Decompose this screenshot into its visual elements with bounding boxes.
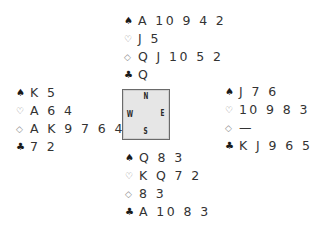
west-clubs-row: ♣ 7 2 [16, 138, 125, 156]
east-hearts-row: ♡ 10 9 8 3 [225, 101, 315, 119]
spade-icon: ♠ [125, 149, 139, 167]
north-hand: ♠ A 10 9 4 2 ♡ J 5 ◇ Q J 10 5 2 ♣ Q [124, 12, 226, 84]
heart-icon: ♡ [225, 101, 239, 119]
north-spades-row: ♠ A 10 9 4 2 [124, 12, 226, 30]
south-clubs: A 10 8 3 [139, 203, 210, 221]
south-clubs-row: ♣ A 10 8 3 [125, 203, 210, 221]
club-icon: ♣ [125, 203, 139, 221]
south-diamonds-row: ◇ 8 3 [125, 185, 210, 203]
north-clubs: Q [138, 66, 150, 84]
west-hearts: A 6 4 [30, 102, 74, 120]
east-diamonds: — [239, 119, 254, 137]
east-spades-row: ♠ J 7 6 [225, 83, 315, 101]
spade-icon: ♠ [16, 84, 30, 102]
east-hand: ♠ J 7 6 ♡ 10 9 8 3 ◇ — ♣ K J 9 6 5 4 [225, 83, 315, 155]
west-diamonds: A K 9 7 6 4 [30, 120, 125, 138]
diamond-icon: ◇ [124, 48, 138, 66]
west-clubs: 7 2 [30, 138, 57, 156]
north-diamonds-row: ◇ Q J 10 5 2 [124, 48, 226, 66]
compass-south-label: S [144, 128, 148, 136]
compass-north-label: N [144, 93, 149, 101]
heart-icon: ♡ [16, 102, 30, 120]
heart-icon: ♡ [125, 167, 139, 185]
east-clubs-row: ♣ K J 9 6 5 4 [225, 137, 315, 155]
spade-icon: ♠ [124, 12, 138, 30]
west-hand: ♠ K 5 ♡ A 6 4 ◇ A K 9 7 6 4 ♣ 7 2 [16, 84, 125, 156]
heart-icon: ♡ [124, 30, 138, 48]
west-spades: K 5 [30, 84, 57, 102]
south-hearts-row: ♡ K Q 7 2 [125, 167, 210, 185]
spade-icon: ♠ [225, 83, 239, 101]
diamond-icon: ◇ [16, 120, 30, 138]
west-diamonds-row: ◇ A K 9 7 6 4 [16, 120, 125, 138]
north-hearts: J 5 [138, 30, 161, 48]
diamond-icon: ◇ [225, 119, 239, 137]
club-icon: ♣ [225, 137, 239, 155]
east-hearts: 10 9 8 3 [239, 101, 310, 119]
west-spades-row: ♠ K 5 [16, 84, 125, 102]
east-diamonds-row: ◇ — [225, 119, 315, 137]
south-spades: Q 8 3 [139, 149, 185, 167]
club-icon: ♣ [16, 138, 30, 156]
club-icon: ♣ [124, 66, 138, 84]
north-spades: A 10 9 4 2 [138, 12, 226, 30]
east-spades: J 7 6 [239, 83, 279, 101]
diamond-icon: ◇ [125, 185, 139, 203]
north-hearts-row: ♡ J 5 [124, 30, 226, 48]
west-hearts-row: ♡ A 6 4 [16, 102, 125, 120]
north-clubs-row: ♣ Q [124, 66, 226, 84]
compass-east-label: E [160, 110, 164, 118]
south-diamonds: 8 3 [139, 185, 166, 203]
south-hand: ♠ Q 8 3 ♡ K Q 7 2 ◇ 8 3 ♣ A 10 8 3 [125, 149, 210, 221]
east-clubs: K J 9 6 5 4 [239, 137, 315, 155]
south-spades-row: ♠ Q 8 3 [125, 149, 210, 167]
south-hearts: K Q 7 2 [139, 167, 202, 185]
north-diamonds: Q J 10 5 2 [138, 48, 223, 66]
compass-box: N W E S [122, 89, 170, 140]
compass-west-label: W [127, 111, 133, 119]
